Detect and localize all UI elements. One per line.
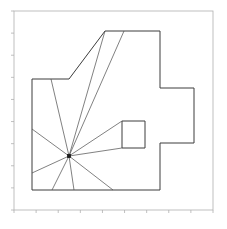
figure-canvas <box>0 0 227 229</box>
figure-background <box>0 0 227 229</box>
plot-area <box>0 0 227 229</box>
marker-group <box>68 155 71 158</box>
viewpoint-marker <box>68 155 71 158</box>
